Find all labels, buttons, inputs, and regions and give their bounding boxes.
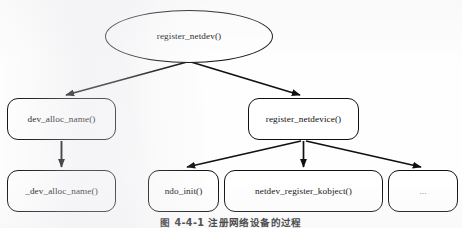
edge-root-to-dev-alloc-name bbox=[66, 62, 187, 95]
edge-register-netdevice-to-more bbox=[306, 141, 421, 167]
node-underscore-dev-alloc-name[interactable]: _dev_alloc_name() bbox=[7, 170, 116, 212]
node-netdev-register-kobject-label: netdev_register_kobject() bbox=[255, 186, 352, 196]
node-dev-alloc-name[interactable]: dev_alloc_name() bbox=[7, 98, 116, 140]
node-register-netdev-label: register_netdev() bbox=[157, 31, 221, 41]
node-more-ellipsis[interactable]: ... bbox=[388, 170, 458, 212]
node-underscore-dev-alloc-name-label: _dev_alloc_name() bbox=[25, 186, 98, 196]
edge-register-netdevice-to-ndo-init bbox=[187, 141, 301, 167]
node-dev-alloc-name-label: dev_alloc_name() bbox=[28, 114, 96, 124]
figure-caption: 图 4-4-1 注册网络设备的过程 bbox=[0, 215, 462, 228]
edge-root-to-register-netdevice bbox=[191, 62, 300, 95]
node-ndo-init[interactable]: ndo_init() bbox=[148, 170, 219, 212]
node-netdev-register-kobject[interactable]: netdev_register_kobject() bbox=[224, 170, 383, 212]
node-more-ellipsis-label: ... bbox=[419, 186, 426, 196]
call-graph-diagram: register_netdev() dev_alloc_name() _dev_… bbox=[0, 0, 462, 228]
node-register-netdev[interactable]: register_netdev() bbox=[105, 10, 273, 63]
node-ndo-init-label: ndo_init() bbox=[165, 186, 203, 196]
node-register-netdevice[interactable]: register_netdevice() bbox=[248, 98, 359, 140]
node-register-netdevice-label: register_netdevice() bbox=[266, 114, 341, 124]
